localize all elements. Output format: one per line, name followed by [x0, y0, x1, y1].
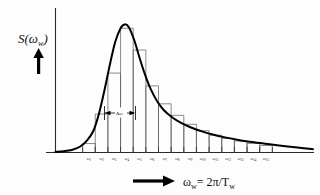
x-tick-label: ω2: [99, 156, 104, 163]
x-tick-label: ω9: [188, 156, 193, 163]
x-tick-label: ω12: [225, 156, 231, 163]
histogram-bar: [222, 138, 235, 152]
x-tick-label: ω14: [250, 156, 256, 163]
chart-canvas: | --> Δω ω1ω2ω3ω4ω5ω6ω7ω8ω9ω10ω11ω12ω13ω…: [0, 0, 320, 195]
x-tick-label: ω15: [263, 156, 269, 163]
histogram-bar: [83, 144, 96, 153]
histogram-bar: [234, 141, 247, 153]
y-axis-label-omega: ω: [29, 31, 38, 46]
spectrum-figure: | --> Δω ω1ω2ω3ω4ω5ω6ω7ω8ω9ω10ω11ω12ω13ω…: [0, 0, 320, 195]
x-tick-label: ω7: [163, 156, 168, 163]
histogram-bars: [83, 28, 273, 152]
x-tick-label: ω13: [238, 156, 244, 163]
x-tick-label: ω6: [150, 156, 155, 163]
histogram-bar: [209, 135, 222, 152]
x-tick-label: ω1: [87, 156, 92, 163]
x-axis-label-expression: = 2π/T: [197, 175, 230, 189]
histogram-bar: [260, 145, 273, 152]
x-tick-label: ω10: [200, 156, 206, 163]
x-tick-label: ω4: [125, 156, 130, 163]
histogram-bar: [247, 144, 260, 153]
histogram-bar: [121, 28, 134, 152]
x-axis-ticks: [83, 147, 273, 153]
x-tick-label: ω11: [213, 156, 219, 163]
y-axis-label-s: S(: [18, 31, 30, 46]
x-axis-label: ωw= 2π/Tw: [183, 175, 235, 191]
x-tick-label: ω8: [175, 156, 180, 163]
y-axis-label-paren: ): [42, 31, 47, 46]
x-tick-label: ω5: [137, 156, 142, 163]
x-axis-label-omega: ω: [183, 175, 191, 189]
x-axis-label-period-subscript: w: [229, 182, 235, 191]
delta-omega-label: Δω: [116, 111, 123, 116]
delta-omega-annotation: Δω: [105, 106, 136, 120]
histogram-bar: [133, 50, 146, 152]
histogram-bar: [146, 86, 159, 153]
up-arrow-icon: [33, 48, 43, 74]
spectrum-curve: [56, 24, 314, 152]
y-axis-label: S(ωw): [18, 31, 48, 48]
x-axis-tick-labels: ω1ω2ω3ω4ω5ω6ω7ω8ω9ω10ω11ω12ω13ω14ω15: [87, 156, 270, 163]
right-arrow-icon: [133, 176, 175, 187]
x-tick-label: ω3: [112, 156, 117, 163]
